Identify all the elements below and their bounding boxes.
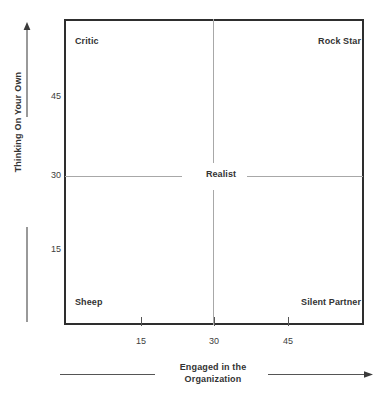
quadrant-label-critic: Critic <box>75 36 99 46</box>
x-axis-title-line1: Engaged in the <box>180 362 247 372</box>
x-tick-label-15: 15 <box>121 337 161 346</box>
quadrant-label-sheep: Sheep <box>75 297 103 307</box>
x-tick-15 <box>141 317 142 326</box>
quadrant-label-realist: Realist <box>0 169 386 179</box>
x-axis-title: Engaged in the Organization <box>143 362 283 385</box>
x-tick-30 <box>214 317 215 326</box>
quadrant-chart: Thinking On Your Own 45 30 15 Critic Roc… <box>0 0 386 402</box>
x-tick-45 <box>288 317 289 326</box>
y-tick-label-15: 15 <box>21 245 61 254</box>
quadrant-label-rock-star: Rock Star <box>318 36 361 46</box>
x-axis-line-left <box>60 371 155 378</box>
x-tick-label-30: 30 <box>194 337 234 346</box>
quadrant-label-silent-partner: Silent Partner <box>301 297 361 307</box>
x-axis-arrow-right <box>268 371 373 378</box>
y-tick-label-45: 45 <box>21 92 61 101</box>
x-axis-title-line2: Organization <box>185 374 242 384</box>
x-tick-label-45: 45 <box>268 337 308 346</box>
